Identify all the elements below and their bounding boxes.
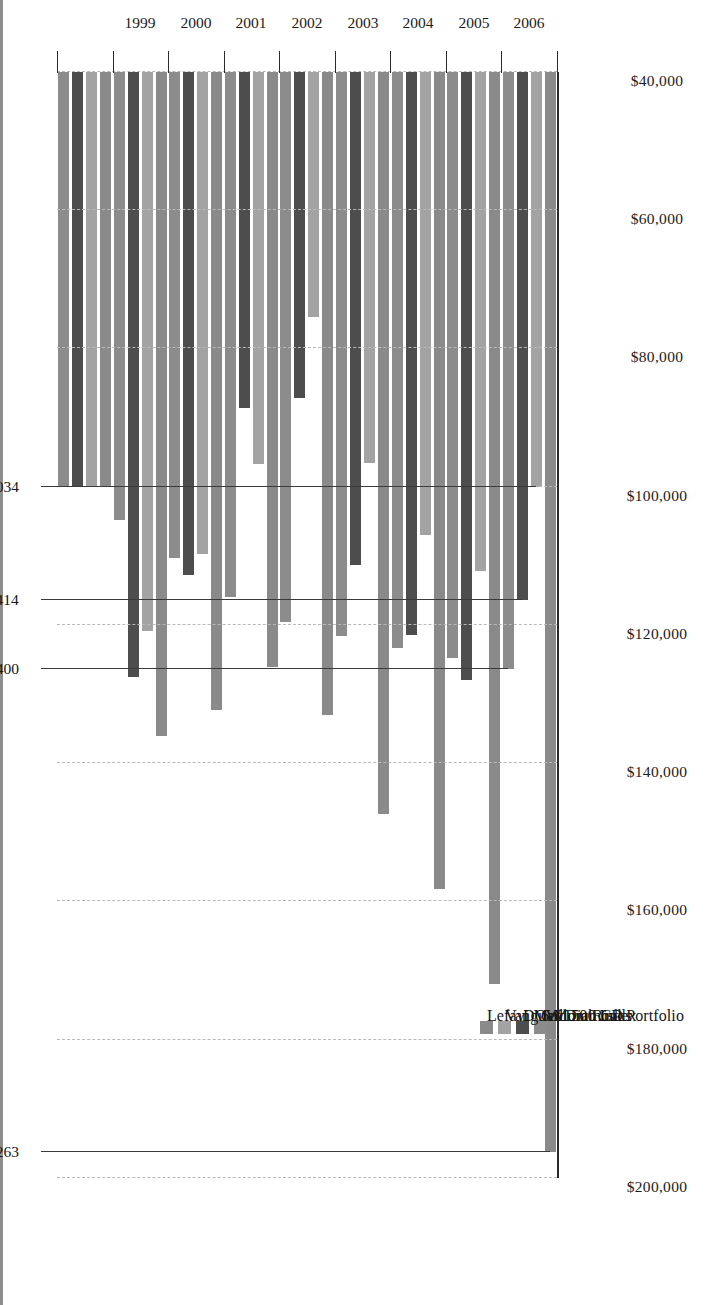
bar: [114, 72, 125, 520]
callout-value-label: $100,034: [0, 478, 19, 496]
bar: [434, 72, 445, 889]
value-tick-label: $200,000: [627, 1178, 688, 1196]
category-tick: [279, 51, 280, 73]
category-label-2002: 2002: [292, 13, 323, 31]
chart-legend: 6 Month CDDOW DiamondsVanguard 500 Index…: [480, 1020, 547, 1033]
bar: [169, 72, 180, 558]
category-tick: [557, 51, 558, 73]
bar: [239, 72, 250, 408]
gridline: [57, 209, 557, 210]
bar: [308, 72, 319, 317]
bar: [336, 72, 347, 636]
bar: [503, 72, 514, 669]
bar: [225, 72, 236, 597]
bar: [211, 72, 222, 710]
legend-label: Lefavi Medium Risk Portfolio: [487, 1006, 684, 1024]
bar: [280, 72, 291, 622]
value-tick-label: $160,000: [627, 901, 688, 919]
category-tick: [57, 51, 58, 73]
bar: [142, 72, 153, 631]
bar: [475, 72, 486, 571]
callout-value-label: $126,400: [0, 660, 19, 678]
value-tick-label: $60,000: [631, 210, 683, 228]
plot-wrapper: 6 Month CDDOW DiamondsVanguard 500 Index…: [39, 38, 679, 1268]
callout-value-label: $116,414: [0, 591, 19, 609]
gridline: [57, 1177, 557, 1178]
value-tick-label: $80,000: [631, 348, 683, 366]
category-tick: [335, 51, 336, 73]
category-tick: [168, 51, 169, 73]
bar: [378, 72, 389, 814]
bar: [322, 72, 333, 715]
bar: [392, 72, 403, 649]
category-label-1999: 1999: [125, 13, 156, 31]
plot-area: 6 Month CDDOW DiamondsVanguard 500 Index…: [57, 72, 559, 1178]
bar: [447, 72, 458, 658]
bar: [531, 72, 542, 487]
category-label-2000: 2000: [180, 13, 211, 31]
value-tick-label: $40,000: [631, 72, 683, 90]
bar: [183, 72, 194, 575]
bar: [58, 72, 69, 487]
bar: [72, 72, 83, 487]
callout-leader-line: [41, 668, 508, 669]
category-tick: [224, 51, 225, 73]
category-label-2003: 2003: [347, 13, 378, 31]
bar: [128, 72, 139, 677]
value-tick-label: $140,000: [627, 763, 688, 781]
category-tick: [501, 51, 502, 73]
callout-leader-line: [41, 599, 522, 600]
bar: [517, 72, 528, 600]
gridline: [57, 71, 557, 72]
category-tick: [113, 51, 114, 73]
legend-item: Lefavi Medium Risk Portfolio: [480, 1020, 493, 1033]
bar: [294, 72, 305, 398]
callout-value-label: $196,263: [0, 1143, 19, 1161]
category-tick: [390, 51, 391, 73]
gridline: [57, 624, 557, 625]
category-label-2001: 2001: [236, 13, 267, 31]
bar: [461, 72, 472, 680]
category-label-2005: 2005: [458, 13, 489, 31]
bar: [156, 72, 167, 736]
rotated-bar-chart: 6 Month CDDOW DiamondsVanguard 500 Index…: [39, 38, 679, 1268]
bar: [350, 72, 361, 565]
bar: [267, 72, 278, 667]
bar: [100, 72, 111, 487]
callout-leader-line: [41, 486, 536, 487]
gridline: [57, 900, 557, 901]
bar: [253, 72, 264, 464]
callout-leader-line: [41, 1151, 550, 1152]
gridline: [57, 762, 557, 763]
value-tick-label: $100,000: [627, 486, 688, 504]
category-label-2004: 2004: [403, 13, 434, 31]
gridline: [57, 347, 557, 348]
gridline: [57, 1038, 557, 1039]
scan-edge-artifact: [0, 0, 3, 1305]
bar: [545, 72, 556, 1152]
bar: [364, 72, 375, 463]
bar: [420, 72, 431, 535]
category-label-2006: 2006: [514, 13, 545, 31]
value-tick-label: $180,000: [627, 1039, 688, 1057]
bar: [86, 72, 97, 487]
category-tick: [446, 51, 447, 73]
value-tick-label: $120,000: [627, 625, 688, 643]
bar: [406, 72, 417, 635]
bar: [197, 72, 208, 554]
